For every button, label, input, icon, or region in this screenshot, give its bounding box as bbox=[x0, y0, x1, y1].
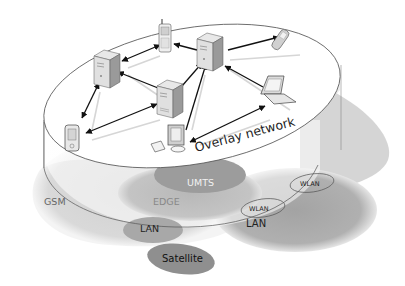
server-icon bbox=[157, 80, 183, 118]
mobile-phone-icon bbox=[159, 19, 171, 52]
satellite-label: Satellite bbox=[162, 253, 203, 264]
gsm-label: GSM bbox=[44, 196, 66, 207]
overlay-network-diagram: Overlay network GSM EDGE UMTS LAN LAN WL… bbox=[0, 0, 405, 286]
wlan-2-label: WLAN bbox=[300, 180, 320, 188]
server-icon bbox=[197, 33, 223, 71]
pda-icon bbox=[65, 125, 79, 151]
lan-left-label: LAN bbox=[140, 223, 159, 234]
umts-label: UMTS bbox=[187, 177, 214, 188]
edge-label: EDGE bbox=[153, 196, 180, 207]
server-icon bbox=[94, 50, 120, 88]
wlan-1-label: WLAN bbox=[249, 205, 269, 213]
lan-right-label: LAN bbox=[246, 218, 266, 229]
